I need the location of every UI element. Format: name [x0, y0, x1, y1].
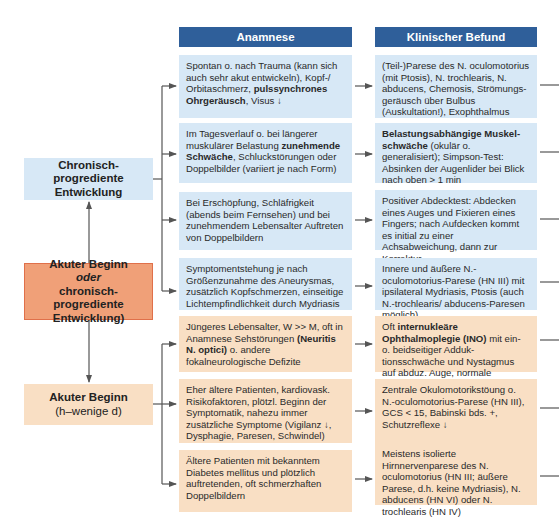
connector-lines	[0, 0, 559, 524]
